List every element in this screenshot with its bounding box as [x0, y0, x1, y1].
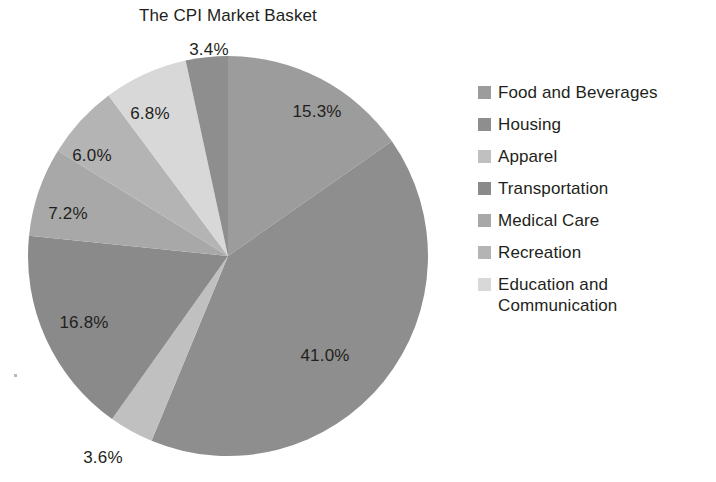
pie-plot-area: 15.3%41.0%3.6%16.8%7.2%6.0%6.8%3.4% — [0, 0, 460, 482]
pie-slice-value-label: 16.8% — [59, 313, 108, 333]
legend-item[interactable]: Recreation — [478, 242, 716, 264]
pie-slice-value-label: 3.4% — [189, 40, 229, 60]
pie-slice-value-label: 41.0% — [300, 346, 349, 366]
legend-item[interactable]: Education and Communication — [478, 274, 716, 316]
legend-item[interactable]: Housing — [478, 114, 716, 136]
pie-slice-value-label: 7.2% — [48, 204, 88, 224]
pie-chart-figure: The CPI Market Basket 15.3%41.0%3.6%16.8… — [0, 0, 716, 482]
scan-artifact-speck — [14, 374, 17, 377]
legend-swatch-icon — [478, 182, 491, 195]
legend-swatch-icon — [478, 214, 491, 227]
legend-item-label: Education and Communication — [498, 274, 716, 316]
pie-slice-value-label: 6.0% — [72, 146, 112, 166]
pie-slice-value-label: 3.6% — [83, 448, 123, 468]
legend-item-label: Transportation — [498, 178, 608, 199]
chart-legend: Food and BeveragesHousingApparelTranspor… — [478, 82, 716, 326]
legend-item-label: Recreation — [498, 242, 581, 263]
legend-item-label: Housing — [498, 114, 561, 135]
legend-item[interactable]: Apparel — [478, 146, 716, 168]
pie-slice-value-label: 15.3% — [292, 102, 341, 122]
legend-swatch-icon — [478, 150, 491, 163]
legend-item[interactable]: Food and Beverages — [478, 82, 716, 104]
legend-swatch-icon — [478, 118, 491, 131]
legend-swatch-icon — [478, 246, 491, 259]
legend-item-label: Food and Beverages — [498, 82, 658, 103]
legend-swatch-icon — [478, 278, 491, 291]
legend-item[interactable]: Medical Care — [478, 210, 716, 232]
pie-slices — [28, 56, 428, 456]
legend-item-label: Medical Care — [498, 210, 599, 231]
pie-slice-value-label: 6.8% — [130, 104, 170, 124]
legend-item-label: Apparel — [498, 146, 557, 167]
legend-item[interactable]: Transportation — [478, 178, 716, 200]
pie-svg — [0, 0, 460, 482]
legend-swatch-icon — [478, 86, 491, 99]
